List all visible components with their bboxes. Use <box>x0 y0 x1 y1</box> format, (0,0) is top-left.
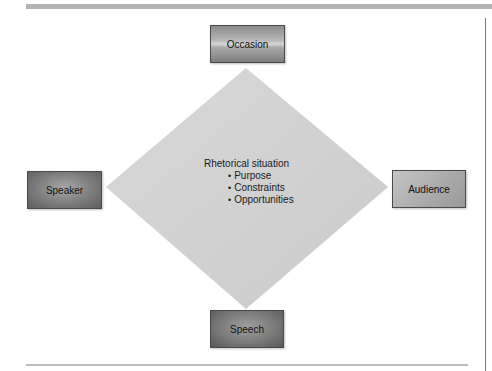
node-speaker: Speaker <box>27 171 102 209</box>
node-speech-label: Speech <box>230 324 264 335</box>
node-audience: Audience <box>392 170 466 208</box>
node-occasion: Occasion <box>210 25 285 63</box>
node-audience-label: Audience <box>408 184 450 195</box>
node-occasion-label: Occasion <box>227 39 269 50</box>
center-item-constraints: Constraints <box>228 182 314 194</box>
center-item-purpose: Purpose <box>228 170 314 182</box>
center-list: Purpose Constraints Opportunities <box>180 170 314 206</box>
center-title: Rhetorical situation <box>180 158 314 170</box>
node-speaker-label: Speaker <box>46 185 83 196</box>
diamond-label: Rhetorical situation Purpose Constraints… <box>180 158 314 206</box>
node-speech: Speech <box>210 310 284 348</box>
center-item-opportunities: Opportunities <box>228 194 314 206</box>
